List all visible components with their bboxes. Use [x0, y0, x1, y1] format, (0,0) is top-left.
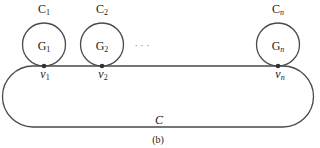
label-c1: C1	[38, 3, 50, 17]
label-g2: G2	[96, 40, 109, 54]
figure-caption: (b)	[152, 135, 164, 145]
label-v1: v1	[40, 68, 49, 82]
ellipsis: · · ·	[135, 41, 150, 51]
label-c2: C2	[96, 3, 108, 17]
label-gn: Gn	[272, 40, 285, 54]
label-cn: Cn	[272, 3, 284, 17]
label-vn: vn	[275, 68, 284, 82]
label-v2: v2	[98, 68, 107, 82]
label-g1: G1	[38, 40, 51, 54]
label-outer-cycle: C	[155, 114, 163, 126]
